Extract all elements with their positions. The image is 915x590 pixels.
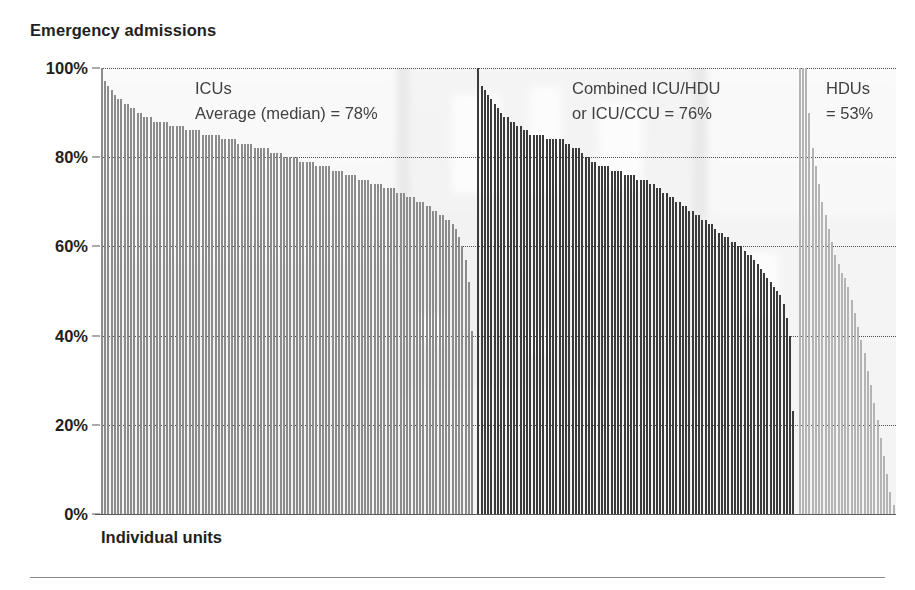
bar [805, 68, 807, 514]
bar [636, 180, 638, 515]
chart-page: Emergency admissions 0%20%40%60%80%100% … [0, 0, 915, 590]
bar [812, 148, 814, 514]
bar [477, 68, 479, 514]
bar [374, 184, 376, 514]
bar [770, 282, 772, 514]
bar [127, 104, 129, 514]
bar [760, 269, 762, 514]
bar [481, 86, 483, 514]
bar [614, 171, 616, 514]
bar [101, 68, 103, 514]
bar [442, 215, 444, 514]
bar [802, 68, 804, 514]
bar [864, 353, 866, 514]
bar [231, 139, 233, 514]
bar [750, 255, 752, 514]
bar [263, 148, 265, 514]
bar [345, 175, 347, 514]
bar [763, 273, 765, 514]
bar [228, 139, 230, 514]
y-axis-tick-mark [92, 157, 100, 158]
bar [120, 99, 122, 514]
bar [611, 171, 613, 514]
bar [169, 126, 171, 514]
bar [104, 81, 106, 514]
bar [380, 184, 382, 514]
bar [542, 135, 544, 514]
bar [445, 220, 447, 514]
bar [880, 438, 882, 514]
bar [662, 193, 664, 514]
bar [150, 117, 152, 514]
bar [649, 184, 651, 514]
bar [416, 202, 418, 514]
bar [533, 135, 535, 514]
bar [740, 246, 742, 514]
bar [698, 215, 700, 514]
bar [133, 108, 135, 514]
bar [205, 135, 207, 514]
bar [585, 157, 587, 514]
bar [156, 122, 158, 514]
bar [468, 282, 470, 514]
bar [377, 184, 379, 514]
bar [685, 206, 687, 514]
bar [510, 122, 512, 514]
bar [821, 202, 823, 514]
bar [682, 206, 684, 514]
bar [815, 166, 817, 514]
y-axis-tick-label: 100% [46, 59, 88, 78]
bar [215, 135, 217, 514]
bar [799, 68, 801, 514]
bar [465, 260, 467, 514]
bar [620, 171, 622, 514]
bar [302, 162, 304, 514]
bar [744, 251, 746, 514]
bar [886, 474, 888, 514]
annotation-hdus-line2: = 53% [826, 101, 873, 126]
bar [396, 193, 398, 514]
bar [776, 291, 778, 514]
bar [221, 139, 223, 514]
bar [192, 130, 194, 514]
bar [325, 166, 327, 514]
bar [893, 505, 895, 514]
bar [419, 202, 421, 514]
bar [202, 135, 204, 514]
bar [692, 211, 694, 514]
y-axis-tick-mark [92, 68, 100, 69]
annotation-combined-line2: or ICU/CCU = 76% [572, 101, 721, 126]
bar-series-1 [101, 68, 474, 514]
bar [581, 153, 583, 514]
bar [348, 175, 350, 514]
bar [808, 113, 810, 514]
plot-area [101, 68, 896, 514]
bar [107, 86, 109, 514]
bar [484, 90, 486, 514]
bar [828, 229, 830, 514]
bar [883, 456, 885, 514]
bar [627, 175, 629, 514]
bar [361, 180, 363, 515]
bar [834, 255, 836, 514]
bar [708, 224, 710, 514]
bar [172, 126, 174, 514]
bar [306, 162, 308, 514]
bar [737, 246, 739, 514]
bar [189, 130, 191, 514]
bar [448, 220, 450, 514]
bar [335, 171, 337, 514]
bar [675, 202, 677, 514]
bar [659, 188, 661, 514]
bar [153, 122, 155, 514]
bar [529, 135, 531, 514]
bar [714, 229, 716, 514]
bar [860, 340, 862, 514]
bar [364, 180, 366, 515]
bar [393, 188, 395, 514]
bar [604, 166, 606, 514]
bar [370, 184, 372, 514]
bar [753, 260, 755, 514]
bar [500, 113, 502, 514]
bar [117, 99, 119, 514]
